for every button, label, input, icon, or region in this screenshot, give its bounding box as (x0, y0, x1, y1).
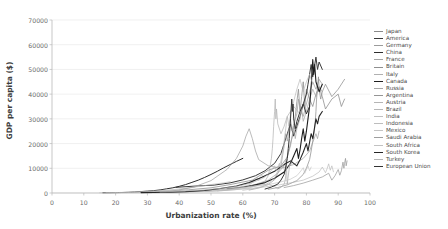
x-tick-label: 70 (271, 199, 279, 206)
legend-label: Japan (386, 28, 402, 35)
legend-item[interactable]: Japan (374, 28, 448, 35)
chart-figure: 010000200003000040000500006000070000 010… (0, 0, 448, 229)
y-axis-label: GDP per capita ($) (5, 61, 14, 139)
legend-swatch-line-icon (374, 145, 383, 146)
x-tick-label: 10 (80, 199, 88, 206)
legend-label: South Africa (386, 142, 420, 149)
legend-item[interactable]: Argentina (374, 92, 448, 99)
legend-swatch-line-icon (374, 74, 383, 75)
legend-swatch-line-icon (374, 67, 383, 68)
legend-item[interactable]: Russia (374, 85, 448, 92)
x-tick-label: 40 (175, 199, 183, 206)
legend-item[interactable]: Turkey (374, 156, 448, 163)
legend-label: European Union (386, 163, 431, 170)
legend-item[interactable]: Britain (374, 63, 448, 70)
x-tick-label: 0 (50, 199, 54, 206)
legend-item[interactable]: South Korea (374, 149, 448, 156)
legend-swatch-line-icon (374, 88, 383, 89)
legend-item[interactable]: Mexico (374, 127, 448, 134)
legend-swatch-line-icon (374, 159, 383, 160)
x-tick-label: 100 (364, 199, 376, 206)
legend-item[interactable]: America (374, 35, 448, 42)
x-tick-label: 30 (143, 199, 151, 206)
legend-swatch-line-icon (374, 59, 383, 60)
series-line-china (103, 158, 243, 192)
series-line-european-union (265, 99, 310, 189)
legend-label: Brazil (386, 106, 402, 113)
legend-label: Italy (386, 71, 398, 78)
legend-swatch-line-icon (374, 130, 383, 131)
legend-swatch-line-icon (374, 137, 383, 138)
legend-swatch-line-icon (374, 52, 383, 53)
legend-swatch-line-icon (374, 166, 383, 167)
legend-label: Mexico (386, 127, 406, 134)
legend-label: Germany (386, 42, 412, 49)
legend-label: France (386, 56, 405, 63)
legend-swatch-line-icon (374, 152, 383, 153)
legend-label: Canada (386, 78, 407, 85)
legend-swatch-line-icon (374, 81, 383, 82)
legend-swatch-line-icon (374, 95, 383, 96)
legend-item[interactable]: Germany (374, 42, 448, 49)
legend-swatch-line-icon (374, 31, 383, 32)
series-line-america (176, 57, 322, 187)
legend-label: Argentina (386, 92, 413, 99)
x-tick-label: 60 (239, 199, 247, 206)
legend-item[interactable]: Italy (374, 71, 448, 78)
legend-label: Turkey (386, 156, 404, 163)
legend-item[interactable]: Saudi Arabia (374, 134, 448, 141)
data-series-group (100, 57, 347, 193)
legend-label: Indonesia (386, 120, 413, 127)
legend-swatch-line-icon (374, 116, 383, 117)
series-line-canada (227, 60, 322, 190)
legend-label: India (386, 113, 400, 120)
legend-swatch-line-icon (374, 38, 383, 39)
x-tick-label: 90 (334, 199, 342, 206)
legend-label: America (386, 35, 409, 42)
legend-item[interactable]: Indonesia (374, 120, 448, 127)
x-tick-label: 20 (112, 199, 120, 206)
series-line-turkey (160, 163, 284, 192)
legend-label: Russia (386, 85, 404, 92)
legend-item[interactable]: Austria (374, 99, 448, 106)
legend-item[interactable]: China (374, 49, 448, 56)
x-axis-label: Urbanization rate (%) (52, 211, 370, 220)
legend-label: China (386, 49, 402, 56)
legend-swatch-line-icon (374, 109, 383, 110)
legend-item[interactable]: India (374, 113, 448, 120)
legend-swatch-line-icon (374, 45, 383, 46)
legend-swatch-line-icon (374, 123, 383, 124)
legend-item[interactable]: France (374, 56, 448, 63)
legend-label: Britain (386, 63, 404, 70)
legend-item[interactable]: Canada (374, 78, 448, 85)
legend-label: Saudi Arabia (386, 134, 422, 141)
x-tick-label: 80 (302, 199, 310, 206)
x-tick-label: 50 (207, 199, 215, 206)
legend-item[interactable]: Brazil (374, 106, 448, 113)
y-axis-label-wrap: GDP per capita ($) (2, 0, 16, 200)
legend-swatch-line-icon (374, 102, 383, 103)
legend-label: South Korea (386, 149, 420, 156)
axis-ticks-group (50, 20, 371, 196)
chart-legend: JapanAmericaGermanyChinaFranceBritainIta… (374, 28, 448, 170)
legend-label: Austria (386, 99, 406, 106)
legend-item[interactable]: South Africa (374, 142, 448, 149)
x-axis-tick-labels: 0102030405060708090100 (0, 199, 448, 211)
legend-item[interactable]: European Union (374, 163, 448, 170)
